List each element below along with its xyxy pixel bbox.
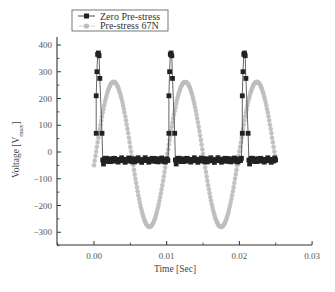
legend-label: Pre-stress 67N: [100, 20, 159, 31]
y-tick-label: 400: [39, 40, 53, 50]
y-tick-label: 0: [48, 147, 53, 157]
x-tick-label: 0.03: [304, 251, 320, 261]
x-tick-label: 0.00: [86, 251, 102, 261]
series-zero-prestress: [94, 51, 278, 167]
y-axis-title: Voltage [Vmax]: [11, 122, 25, 178]
voltage-time-chart: −300−200−1000100200300400 0.000.010.020.…: [0, 0, 335, 292]
x-tick-label: 0.01: [159, 251, 175, 261]
series-prestress-67n: [92, 80, 278, 230]
x-axis-ticks: 0.000.010.020.03: [58, 241, 321, 261]
x-axis-title: Time [Sec]: [154, 264, 196, 274]
y-tick-label: 200: [39, 94, 53, 104]
y-tick-label: −200: [33, 201, 52, 211]
y-tick-label: 300: [39, 67, 53, 77]
plot-area: [92, 51, 278, 230]
y-tick-label: −300: [33, 227, 52, 237]
square-marker-icon: [84, 14, 89, 19]
legend: Zero Pre-stress Pre-stress 67N: [72, 10, 168, 31]
y-tick-label: 100: [39, 120, 53, 130]
circle-marker-icon: [84, 23, 89, 28]
y-tick-label: −100: [33, 174, 52, 184]
x-tick-label: 0.02: [232, 251, 248, 261]
